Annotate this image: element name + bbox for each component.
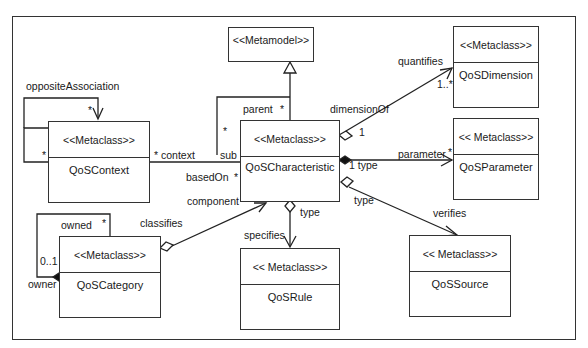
stereotype: << Metaclass>> (241, 249, 339, 285)
class-name: QoSContext (49, 158, 149, 176)
class-name: QoSCharacteristic (241, 157, 339, 173)
aggregation-diamond-icon (339, 131, 352, 140)
generalization-arrow-icon (284, 62, 296, 73)
class-qoscharacteristic[interactable]: <<Metaclass>> QoSCharacteristic (240, 120, 340, 202)
label-parent-star: * (280, 104, 284, 115)
label-based-on: basedOn (186, 172, 229, 183)
class-name: QoSSource (410, 272, 510, 290)
label-opposite-star-top: * (88, 105, 92, 116)
label-dimension-mult: 1..* (437, 79, 453, 90)
label-parameter-star: * (448, 147, 452, 158)
class-qosdimension[interactable]: <<Metaclass>> QoSDimension (453, 26, 539, 108)
metamodel-box[interactable]: <<Metamodel>> (228, 27, 314, 62)
label-classifies: classifies (140, 218, 183, 229)
class-name: QoSCategory (60, 273, 160, 291)
stereotype: << Metaclass>> (410, 236, 510, 272)
label-dimension-of: dimensionOf (330, 104, 389, 115)
class-name: QoSDimension (454, 63, 538, 81)
metamodel-stereotype: <<Metamodel>> (233, 34, 309, 61)
label-parameter: parameter (398, 149, 446, 160)
stereotype: <<Metaclass>> (49, 122, 149, 158)
label-based-on-star: * (234, 172, 238, 183)
label-specifies: specifies (244, 230, 285, 241)
label-type-one: 1 type (349, 160, 378, 171)
label-verifies: verifies (433, 208, 466, 219)
label-opposite-association: oppositeAssociation (26, 81, 119, 92)
label-owned-star: * (102, 218, 106, 229)
class-name: QoSParameter (454, 155, 538, 173)
stereotype: << Metaclass>> (454, 119, 538, 155)
label-context: * context (154, 150, 195, 161)
stereotype: <<Metaclass>> (241, 121, 339, 157)
class-name: QoSRule (241, 285, 339, 303)
label-owner-mult: 0..1 (40, 256, 58, 267)
class-qosparameter[interactable]: << Metaclass>> QoSParameter (453, 118, 539, 200)
class-qosrule[interactable]: << Metaclass>> QoSRule (240, 248, 340, 330)
label-component: component (187, 196, 239, 207)
label-owner: owner (28, 279, 57, 290)
class-qossource[interactable]: << Metaclass>> QoSSource (409, 235, 511, 317)
class-qoscontext[interactable]: <<Metaclass>> QoSContext (48, 121, 150, 203)
label-dimension-one: 1 (359, 127, 365, 138)
aggregation-diamond-icon (160, 242, 173, 251)
label-quantifies: quantifies (398, 56, 443, 67)
aggregation-diamond-icon (341, 177, 353, 187)
label-owned: owned (61, 220, 92, 231)
class-qoscategory[interactable]: <<Metaclass>> QoSCategory (59, 236, 161, 318)
label-opposite-star-left: * (42, 150, 46, 161)
label-type-right: type (354, 195, 374, 206)
stereotype: <<Metaclass>> (60, 237, 160, 273)
label-sub-star: * (223, 126, 227, 137)
label-type-down: type (300, 207, 320, 218)
stereotype: <<Metaclass>> (454, 27, 538, 63)
label-parent: parent (243, 104, 273, 115)
label-sub: sub (220, 150, 237, 161)
